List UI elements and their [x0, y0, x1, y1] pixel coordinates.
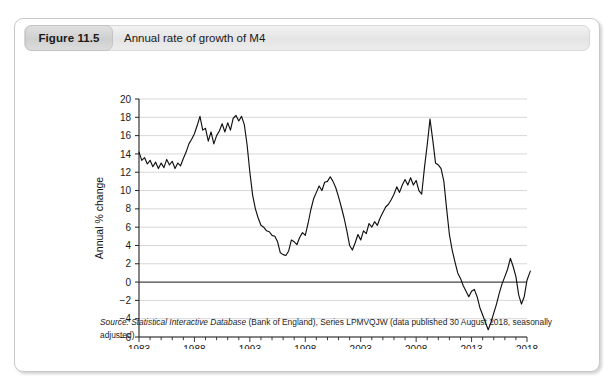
y-axis-tick-label: 16 [120, 130, 132, 141]
line-chart: 20181614121086420−2−4−6 1983198819931998… [15, 59, 599, 349]
figure-header-bar: Figure 11.5 Annual rate of growth of M4 [24, 25, 590, 51]
y-axis-tick-label: 0 [125, 277, 131, 288]
gridlines-group [139, 99, 527, 337]
y-axis-tick-label: 20 [120, 94, 132, 105]
y-axis-tick-label: 10 [120, 185, 132, 196]
figure-number-chip: Figure 11.5 [25, 25, 113, 51]
x-axis-tick-label: 1998 [294, 344, 317, 349]
y-axis-tick-label: 2 [125, 258, 131, 269]
x-axis-tick-label: 1988 [183, 344, 206, 349]
data-series-line [139, 115, 530, 329]
figure-card: Figure 11.5 Annual rate of growth of M4 … [14, 18, 600, 372]
source-database-name: Statistical Interactive Database [131, 317, 246, 327]
x-axis-tick-label: 1993 [239, 344, 262, 349]
y-axis-tick-label: 6 [125, 222, 131, 233]
y-axis-tick-label: −2 [120, 295, 132, 306]
source-prefix: Source: [100, 317, 129, 327]
x-axis-tick-label: 1983 [128, 344, 151, 349]
y-axis-tick-label: 4 [125, 240, 131, 251]
y-axis-ticks-group: 20181614121086420−2−4−6 [120, 94, 139, 343]
figure-title: Annual rate of growth of M4 [124, 26, 265, 50]
x-axis-tick-label: 2008 [405, 344, 428, 349]
y-axis-tick-label: 18 [120, 112, 132, 123]
x-axis-tick-label: 2018 [516, 344, 539, 349]
source-note: Source: Statistical Interactive Database… [100, 316, 570, 341]
chart-plot-area: 20181614121086420−2−4−6 1983198819931998… [15, 59, 599, 349]
y-axis-title: Annual % change [93, 177, 105, 259]
y-axis-tick-label: 14 [120, 149, 132, 160]
x-axis-tick-label: 2013 [460, 344, 483, 349]
y-axis-tick-label: 8 [125, 203, 131, 214]
y-axis-tick-label: 12 [120, 167, 132, 178]
x-axis-tick-label: 2003 [350, 344, 373, 349]
